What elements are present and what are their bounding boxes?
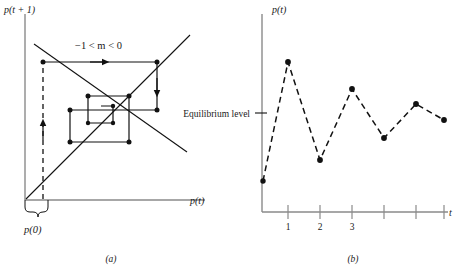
panel-a-vertex <box>68 140 73 145</box>
panel-b-data-point <box>285 59 291 65</box>
panel-a-vertex <box>111 121 115 125</box>
panel-a-slope-annotation: −1 < m < 0 <box>75 40 122 51</box>
panel-b-data-point <box>317 157 323 163</box>
panel-b-x-axis-label: t <box>449 207 452 218</box>
panel-a-initial-value-label: p(0) <box>23 224 42 236</box>
panel-b-equilibrium-label: Equilibrium level <box>183 109 250 119</box>
panel-a-x-axis-label: p(t) <box>189 195 205 207</box>
panel-b-data-point <box>381 135 387 141</box>
panel-a-vertex <box>86 121 90 125</box>
panel-a-caption: (a) <box>105 254 116 265</box>
panel-b-data-point <box>260 178 265 183</box>
panel-a-y-axis-label: p(t + 1) <box>3 4 36 16</box>
panel-b-data-point <box>441 117 447 123</box>
panel-a-vertex <box>111 104 115 108</box>
panel-b-data-point <box>349 86 355 92</box>
panel-a-vertex <box>86 94 91 99</box>
panel-a-vertex <box>41 60 46 65</box>
panel-a-vertex <box>155 108 160 113</box>
panel-a-vertex <box>127 94 132 99</box>
figure-background <box>0 0 460 276</box>
panel-b-y-axis-label: p(t) <box>271 4 287 16</box>
panel-a-vertex <box>68 108 73 113</box>
panel-b-xtick-label-2: 2 <box>318 222 323 232</box>
panel-b-data-point <box>413 101 419 107</box>
panel-a-vertex <box>127 140 132 145</box>
panel-b-caption: (b) <box>347 254 358 265</box>
panel-a-vertex <box>155 60 160 65</box>
panel-b-xtick-label-3: 3 <box>350 222 355 232</box>
figure-container: p(t + 1) p(t) −1 < m < 0 p(0) (a) <box>0 0 460 276</box>
figure-svg: p(t + 1) p(t) −1 < m < 0 p(0) (a) <box>0 0 460 276</box>
panel-b-xtick-label-1: 1 <box>286 222 291 232</box>
